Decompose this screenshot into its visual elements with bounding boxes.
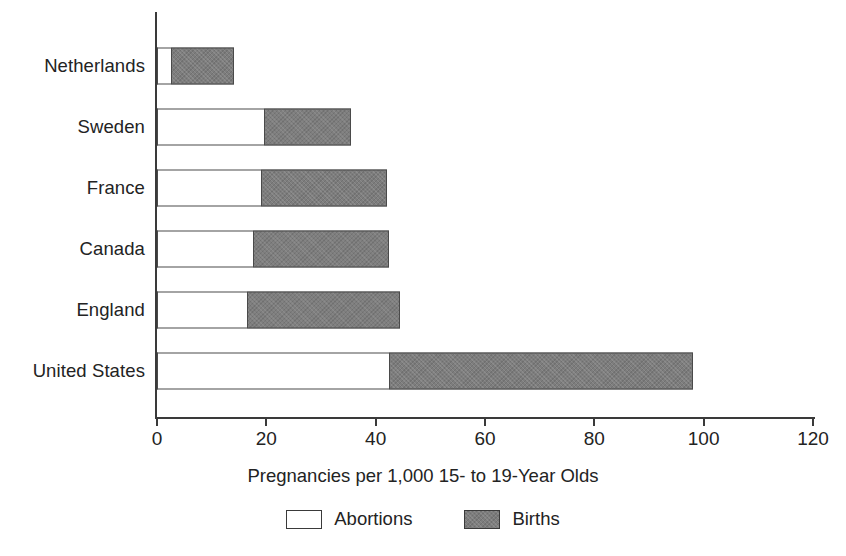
x-tick-label: 20	[256, 428, 277, 450]
category-label-france: France	[87, 177, 145, 199]
category-label-england: England	[76, 299, 145, 321]
legend-swatch-births	[464, 510, 500, 529]
x-tick-label: 40	[365, 428, 386, 450]
bar-segment-births	[264, 109, 351, 146]
x-tick-mark	[156, 417, 158, 426]
x-tick-label: 60	[474, 428, 495, 450]
legend-item-abortions: Abortions	[286, 508, 412, 530]
bar-row: England	[157, 289, 813, 331]
bar-segment-births	[253, 231, 390, 268]
bar-segment-abortions	[157, 109, 264, 146]
bar-row: Canada	[157, 228, 813, 270]
x-tick-label: 100	[688, 428, 720, 450]
x-tick-label: 80	[584, 428, 605, 450]
chart-legend: AbortionsBirths	[0, 508, 846, 530]
x-tick-mark	[375, 417, 377, 426]
bar-segment-births	[171, 48, 234, 85]
bar-segment-births	[389, 353, 692, 390]
category-label-netherlands: Netherlands	[44, 55, 145, 77]
legend-swatch-abortions	[286, 510, 322, 529]
bar-segment-abortions	[157, 170, 261, 207]
x-tick-mark	[484, 417, 486, 426]
bar-row: Netherlands	[157, 45, 813, 87]
x-tick-mark	[593, 417, 595, 426]
bar-segment-abortions	[157, 292, 247, 329]
legend-label: Births	[512, 508, 559, 530]
bar-segment-abortions	[157, 48, 171, 85]
stacked-bar	[157, 292, 400, 329]
stacked-bar	[157, 353, 693, 390]
bar-row: United States	[157, 350, 813, 392]
plot-area: NetherlandsSwedenFranceCanadaEnglandUnit…	[157, 12, 813, 418]
x-tick-mark	[812, 417, 814, 426]
x-tick-mark	[703, 417, 705, 426]
x-tick-mark	[265, 417, 267, 426]
bar-segment-abortions	[157, 231, 253, 268]
bar-segment-births	[247, 292, 400, 329]
pregnancy-rate-bar-chart: NetherlandsSwedenFranceCanadaEnglandUnit…	[0, 0, 846, 556]
bar-segment-births	[261, 170, 387, 207]
stacked-bar	[157, 109, 351, 146]
x-axis-title: Pregnancies per 1,000 15- to 19-Year Old…	[0, 465, 846, 487]
stacked-bar	[157, 48, 234, 85]
category-label-canada: Canada	[80, 238, 145, 260]
bar-row: Sweden	[157, 106, 813, 148]
x-tick-label: 120	[797, 428, 829, 450]
legend-label: Abortions	[334, 508, 412, 530]
stacked-bar	[157, 231, 389, 268]
category-label-united-states: United States	[33, 360, 145, 382]
x-tick-label: 0	[152, 428, 163, 450]
stacked-bar	[157, 170, 387, 207]
bar-row: France	[157, 167, 813, 209]
bar-segment-abortions	[157, 353, 389, 390]
legend-item-births: Births	[464, 508, 559, 530]
category-label-sweden: Sweden	[78, 116, 145, 138]
